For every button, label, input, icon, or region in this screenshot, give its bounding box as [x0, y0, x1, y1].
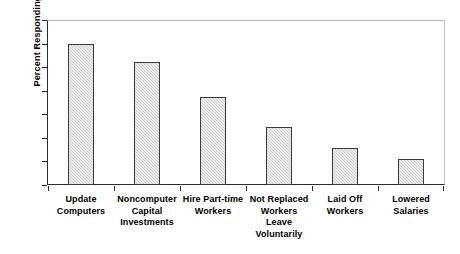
x-axis-tick-mark [114, 186, 115, 191]
x-axis-tick-mark [443, 186, 444, 191]
y-axis-tick-mark [42, 161, 47, 162]
x-axis-category-label-line: Leave [240, 217, 318, 229]
y-axis-tick-mark [42, 114, 47, 115]
x-axis-category-label: LoweredSalaries [372, 194, 450, 217]
y-axis-title: Percent Responding [32, 0, 42, 116]
x-axis-tick-mark [180, 186, 181, 191]
bars-layer [48, 20, 444, 185]
bar-slot [114, 20, 180, 185]
bar-slot [180, 20, 246, 185]
bar-slot [378, 20, 444, 185]
x-axis-category-label-line: Lowered [372, 194, 450, 206]
bar [68, 44, 94, 185]
x-axis-tick-mark [312, 186, 313, 191]
y-axis-tick-mark [42, 20, 47, 21]
x-axis-category-label-line: Voluntarily [240, 229, 318, 241]
bar-slot [312, 20, 378, 185]
bar-slot [48, 20, 114, 185]
y-axis-tick-mark [42, 91, 47, 92]
bar-chart-figure: Percent Responding 010203040506070 Updat… [0, 0, 460, 254]
y-axis-tick-mark [42, 67, 47, 68]
bar [398, 159, 424, 185]
y-axis-tick-mark [42, 44, 47, 45]
x-axis-tick-mark [246, 186, 247, 191]
y-axis-tick-mark [42, 185, 47, 186]
bar [200, 97, 226, 185]
y-axis-tick-mark [42, 138, 47, 139]
bar [332, 148, 358, 185]
x-axis-category-label-line: Investments [108, 217, 186, 229]
x-axis-tick-mark [48, 186, 49, 191]
x-axis-ticks [48, 186, 444, 192]
x-axis-category-labels: UpdateComputersNoncomputerCapitalInvestm… [48, 194, 444, 252]
x-axis-category-label-line: Salaries [372, 206, 450, 218]
bar [266, 127, 292, 185]
bar-slot [246, 20, 312, 185]
x-axis-tick-mark [378, 186, 379, 191]
bar [134, 62, 160, 185]
